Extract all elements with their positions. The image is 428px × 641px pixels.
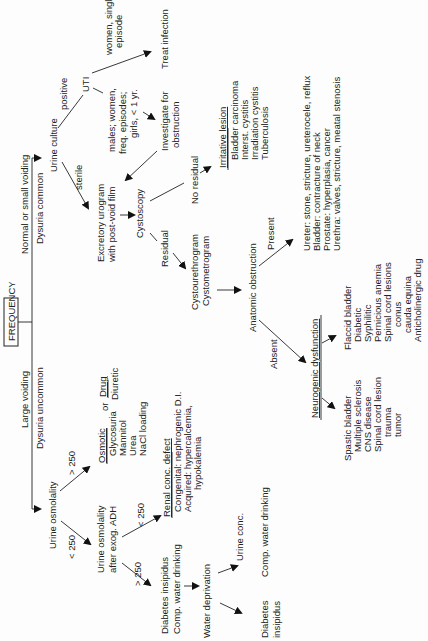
renal-title: Renal conc. defect: [161, 438, 172, 517]
branch-right-label: Normal or small voiding: [19, 155, 30, 254]
urogram-line-2: with post-void film: [106, 186, 117, 263]
renal-defect-group: Renal conc. defect Congenital: nephrogen…: [161, 392, 203, 518]
cystoscopy-node: Cystoscopy: [134, 189, 145, 238]
or-label: or: [99, 403, 110, 411]
branch-right-sub: Dysuria common: [34, 173, 45, 244]
males-line-1: males; women,: [106, 88, 117, 152]
label-gt250: > 250: [66, 451, 77, 475]
root-label: FREQUENCY: [6, 281, 17, 341]
label-adh-gt250: > 250: [132, 562, 143, 586]
root-node: FREQUENCY: [4, 281, 18, 346]
flaccid-bladder-list: Flaccid bladder Diabetic Syphilitic Pern…: [342, 259, 423, 350]
renal-item: hypokalemia: [192, 436, 203, 490]
osmotic-title: Osmotic: [96, 428, 107, 463]
comp-water-result: Comp. water drinking: [259, 487, 270, 577]
cystourethrogram: Cystourethrogram: [189, 234, 200, 310]
women-single-2: episode: [113, 15, 124, 48]
urine-culture: Urine culture: [48, 118, 59, 172]
drug-group: Drug Diuretic: [97, 368, 120, 400]
males-line-2: freq. episodes;: [117, 92, 128, 154]
investigate-2: obstruction: [170, 102, 181, 148]
neurogenic-dysfunction: Neurogenic dysfunction: [309, 319, 320, 418]
irritative-title: Irritative lesion: [217, 107, 228, 168]
adh-line-2: after exog. ADH: [107, 506, 118, 573]
urogram-line-1: Excretory urogram: [95, 184, 106, 262]
label-no-residual: No residual: [189, 156, 200, 204]
anatomic-obstruction: Anatomic obstruction: [247, 243, 258, 332]
label-present: Present: [265, 217, 276, 250]
urine-osmolality: Urine osmolality: [47, 481, 58, 549]
branch-left-label: Large voiding: [19, 371, 30, 428]
investigate-1: Investigate for: [159, 91, 170, 151]
label-positive: positive: [58, 78, 69, 110]
label-sterile: sterile: [73, 165, 84, 190]
spastic-item: tumor: [392, 413, 403, 437]
drug-title: Drug: [97, 376, 108, 397]
osmotic-item: NaCl loading: [137, 402, 148, 456]
di-line-2: Comp. water drinking: [171, 544, 182, 634]
urine-conc: Urine conc.: [234, 513, 245, 561]
anatomic-causes-list: Ureter: stone, stricture, ureterocele, r…: [301, 75, 342, 251]
treat-infection: Treat infection: [159, 9, 170, 69]
branch-left-sub: Dysuria uncommon: [34, 367, 45, 449]
flaccid-item: Anticholinergic drug: [412, 259, 423, 342]
di-line-1: Diabetes insipidus: [159, 557, 170, 634]
uti-node: UTI: [80, 77, 91, 92]
irritative-item: Tuberculosis: [259, 106, 270, 160]
label-residual: Residual: [159, 230, 170, 267]
di-result-1: Diabetes: [259, 600, 270, 638]
irritative-lesion-group: Irritative lesion Bladder carcinoma Inte…: [217, 80, 270, 170]
label-adh-lt250: < 250: [135, 503, 146, 527]
water-deprivation: Water deprivation: [201, 564, 212, 638]
frequency-flowchart: FREQUENCY Normal or small voiding Dysuri…: [0, 0, 428, 641]
anatomic-cause: Urethra: valves, stricture, meatal steno…: [331, 77, 342, 251]
drug-item: Diuretic: [109, 368, 120, 400]
label-absent: Absent: [268, 339, 279, 369]
di-result-2: insipidus: [271, 601, 282, 638]
cystometrogram: Cystometrogram: [200, 236, 211, 306]
spastic-bladder-list: Spastic bladder Multiple sclerosis CNS d…: [342, 377, 403, 461]
males-line-3: girls, < 1 yr.: [128, 89, 139, 138]
label-lt250: < 250: [66, 535, 77, 559]
adh-line-1: Urine osmolality: [95, 505, 106, 573]
